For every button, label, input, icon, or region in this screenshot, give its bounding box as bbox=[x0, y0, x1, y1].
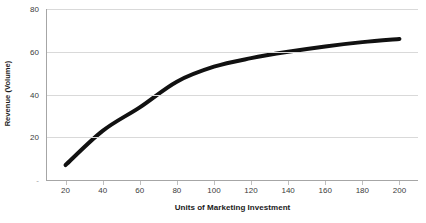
x-axis-title: Units of Marketing Investment bbox=[47, 203, 418, 212]
x-tick-mark-100 bbox=[214, 181, 215, 185]
x-axis-tick-labels: 20406080100120140160180200 bbox=[47, 186, 418, 200]
y-tick-label-40: 40 bbox=[30, 90, 39, 99]
gridline-y-40 bbox=[47, 95, 418, 96]
x-tick-label-160: 160 bbox=[319, 186, 332, 195]
y-axis-tick-labels: -20406080 bbox=[16, 0, 43, 190]
x-tick-mark-200 bbox=[399, 181, 400, 185]
x-tick-label-140: 140 bbox=[281, 186, 294, 195]
x-tick-mark-40 bbox=[103, 181, 104, 185]
x-tick-label-120: 120 bbox=[244, 186, 257, 195]
y-axis-title: Revenue (Volume) bbox=[0, 0, 16, 186]
x-tick-mark-60 bbox=[140, 181, 141, 185]
plot-area bbox=[47, 9, 418, 180]
x-tick-mark-140 bbox=[288, 181, 289, 185]
x-tick-label-80: 80 bbox=[172, 186, 181, 195]
x-tick-label-60: 60 bbox=[135, 186, 144, 195]
y-tick-label--: - bbox=[36, 176, 39, 185]
y-tick-label-20: 20 bbox=[30, 133, 39, 142]
gridline-y-20 bbox=[47, 137, 418, 138]
x-tick-mark-120 bbox=[251, 181, 252, 185]
x-tick-label-20: 20 bbox=[61, 186, 70, 195]
y-axis-title-label: Revenue (Volume) bbox=[4, 60, 13, 126]
x-tick-label-200: 200 bbox=[393, 186, 406, 195]
x-tick-mark-80 bbox=[177, 181, 178, 185]
chart-container: Revenue (Volume) -20406080 2040608010012… bbox=[0, 0, 426, 223]
x-tick-label-100: 100 bbox=[207, 186, 220, 195]
x-tick-label-180: 180 bbox=[356, 186, 369, 195]
y-tick-label-60: 60 bbox=[30, 47, 39, 56]
gridline-y-60 bbox=[47, 52, 418, 53]
x-tick-mark-20 bbox=[66, 181, 67, 185]
x-tick-mark-180 bbox=[362, 181, 363, 185]
gridline-y-80 bbox=[47, 9, 418, 10]
revenue-curve-path bbox=[66, 39, 400, 165]
y-tick-label-80: 80 bbox=[30, 5, 39, 14]
x-tick-mark-160 bbox=[325, 181, 326, 185]
x-tick-label-40: 40 bbox=[98, 186, 107, 195]
